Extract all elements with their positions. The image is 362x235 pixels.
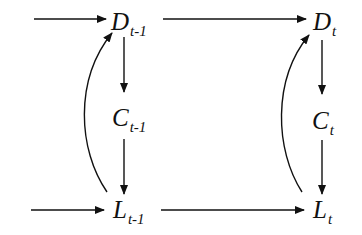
node-d-curr-subscript: t (332, 23, 336, 39)
node-l-curr: Lt (313, 197, 332, 222)
node-c-curr: Ct (312, 108, 334, 133)
arrow-l-prev-to-d-prev-curved (84, 33, 112, 192)
diagram-canvas: Dt-1 Ct-1 Lt-1 Dt Ct Lt (0, 0, 362, 235)
node-l-curr-base: L (313, 196, 327, 223)
node-d-prev-subscript: t-1 (130, 23, 147, 39)
node-d-curr: Dt (313, 9, 336, 34)
node-c-prev-subscript: t-1 (130, 119, 147, 135)
arrow-l-curr-to-d-curr-curved (281, 35, 309, 192)
node-l-prev: Lt-1 (113, 197, 145, 222)
node-c-prev-base: C (112, 104, 129, 131)
node-c-prev: Ct-1 (112, 105, 146, 130)
node-l-curr-subscript: t (328, 211, 332, 227)
node-c-curr-subscript: t (330, 122, 334, 138)
node-l-prev-base: L (113, 196, 127, 223)
node-c-curr-base: C (312, 107, 329, 134)
node-d-curr-base: D (313, 8, 331, 35)
arrows-layer (0, 0, 362, 235)
node-d-prev-base: D (111, 8, 129, 35)
node-l-prev-subscript: t-1 (128, 211, 145, 227)
node-d-prev: Dt-1 (111, 9, 147, 34)
